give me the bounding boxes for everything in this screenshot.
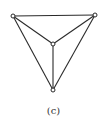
node-center (51, 42, 55, 46)
figure-caption: (c) (0, 105, 107, 116)
edge-top-right-bottom (53, 15, 95, 90)
node-bottom (51, 88, 55, 92)
edge-top-left-center (13, 16, 53, 44)
node-top-left (11, 14, 15, 18)
node-top-right (93, 13, 97, 17)
edge-top-right-center (53, 15, 95, 44)
edge-top-left-top-right (13, 15, 95, 16)
edge-top-left-bottom (13, 16, 53, 90)
